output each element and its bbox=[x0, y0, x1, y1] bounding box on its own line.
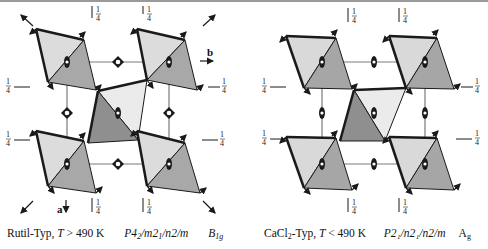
cacl2-structure-diagram: 14 14 14 14 14 14 14 14 bbox=[244, 0, 488, 249]
svg-text:4: 4 bbox=[6, 86, 10, 95]
svg-text:1: 1 bbox=[220, 130, 224, 139]
rutile-structure-name: Rutil-Typ, bbox=[7, 227, 57, 239]
svg-text:1: 1 bbox=[6, 77, 10, 86]
svg-text:4: 4 bbox=[262, 86, 266, 95]
svg-text:1: 1 bbox=[147, 198, 151, 207]
svg-text:1: 1 bbox=[6, 130, 10, 139]
rutile-temperature: > 490 K bbox=[64, 227, 105, 239]
svg-text:4: 4 bbox=[403, 207, 407, 216]
rutile-space-group: P42/m21/n2/m bbox=[124, 227, 188, 239]
cacl2-caption: CaCl2-Typ, T < 490 K P2₁/n2₁/n2/m Ag bbox=[264, 227, 471, 239]
svg-text:1: 1 bbox=[475, 77, 479, 86]
axis-a: a bbox=[57, 200, 66, 215]
svg-text:4: 4 bbox=[475, 138, 479, 147]
svg-text:4: 4 bbox=[262, 138, 266, 147]
svg-text:4: 4 bbox=[147, 14, 151, 23]
svg-text:4: 4 bbox=[352, 16, 356, 25]
octahedron-bottom-right bbox=[389, 137, 454, 190]
svg-text:1: 1 bbox=[352, 198, 356, 207]
svg-text:4: 4 bbox=[220, 139, 224, 148]
svg-text:4: 4 bbox=[222, 86, 226, 95]
cacl2-space-group: P2₁/n2₁/n2/m bbox=[384, 227, 446, 239]
svg-text:4: 4 bbox=[475, 86, 479, 95]
cacl2-structure-name: CaCl2-Typ, bbox=[264, 227, 319, 239]
svg-text:1: 1 bbox=[403, 7, 407, 16]
svg-text:1: 1 bbox=[262, 77, 266, 86]
rutile-irrep: B1g bbox=[208, 227, 223, 239]
cacl2-temperature: < 490 K bbox=[325, 227, 366, 239]
axis-b: b bbox=[200, 46, 213, 61]
axis-b-label: b bbox=[207, 46, 213, 58]
rutile-caption: Rutil-Typ, T > 490 K P42/m21/n2/m B1g bbox=[7, 227, 223, 239]
octahedron-top-right bbox=[389, 36, 454, 89]
rutile-structure-diagram: 14 14 14 14 14 14 14 14 b a bbox=[0, 0, 244, 249]
svg-text:1: 1 bbox=[403, 198, 407, 207]
svg-text:4: 4 bbox=[6, 139, 10, 148]
svg-text:1: 1 bbox=[96, 5, 100, 14]
svg-text:4: 4 bbox=[96, 14, 100, 23]
rutile-panel: 14 14 14 14 14 14 14 14 b a Rutil-Typ, T… bbox=[0, 0, 244, 249]
svg-text:1: 1 bbox=[147, 5, 151, 14]
octahedron-top-left bbox=[286, 36, 352, 89]
cacl2-irrep: Ag bbox=[459, 227, 471, 239]
svg-text:4: 4 bbox=[147, 207, 151, 216]
svg-text:4: 4 bbox=[403, 16, 407, 25]
svg-text:1: 1 bbox=[475, 129, 479, 138]
axis-a-label: a bbox=[57, 203, 63, 215]
octahedron-bottom-left bbox=[286, 137, 352, 190]
cacl2-panel: 14 14 14 14 14 14 14 14 CaCl2-Typ, T < 4… bbox=[244, 0, 488, 249]
svg-text:1: 1 bbox=[96, 198, 100, 207]
svg-text:4: 4 bbox=[352, 207, 356, 216]
svg-text:1: 1 bbox=[222, 77, 226, 86]
svg-text:4: 4 bbox=[96, 207, 100, 216]
svg-text:1: 1 bbox=[352, 7, 356, 16]
svg-text:1: 1 bbox=[262, 129, 266, 138]
